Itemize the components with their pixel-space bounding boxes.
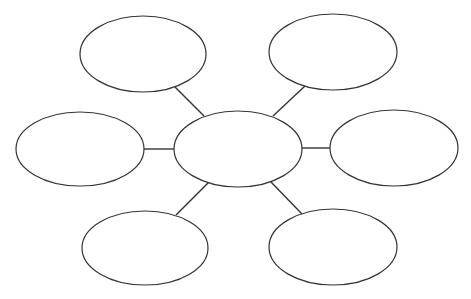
- bubble-left[interactable]: [16, 112, 144, 186]
- ellipse-top-right[interactable]: [269, 14, 397, 90]
- connector-top-left: [175, 87, 204, 116]
- nodes-group: [16, 14, 458, 285]
- bubble-right[interactable]: [330, 110, 458, 186]
- bubble-top-left[interactable]: [80, 16, 206, 92]
- bubble-map-diagram: [0, 0, 471, 299]
- bubble-top-right[interactable]: [269, 14, 397, 90]
- ellipse-bottom-right[interactable]: [269, 209, 397, 285]
- connector-bottom-left: [176, 182, 209, 215]
- bubble-bottom-left[interactable]: [82, 211, 208, 285]
- center-bubble[interactable]: [174, 111, 302, 187]
- bubble-bottom-right[interactable]: [269, 209, 397, 285]
- bubble-map-canvas: [0, 0, 471, 299]
- connector-top-right: [273, 86, 305, 116]
- connector-bottom-right: [270, 181, 302, 214]
- ellipse-top-left[interactable]: [80, 16, 206, 92]
- ellipse-left[interactable]: [16, 112, 144, 186]
- center-ellipse[interactable]: [174, 111, 302, 187]
- ellipse-right[interactable]: [330, 110, 458, 186]
- ellipse-bottom-left[interactable]: [82, 211, 208, 285]
